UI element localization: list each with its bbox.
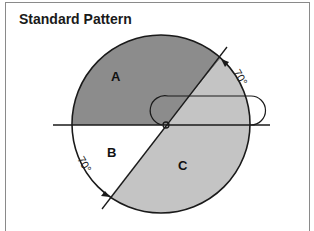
region-a-label: A [111, 69, 121, 84]
region-b-label: B [107, 145, 116, 160]
standard-pattern-diagram: A B C 70° 70° [0, 0, 314, 231]
region-c-label: C [178, 158, 188, 173]
